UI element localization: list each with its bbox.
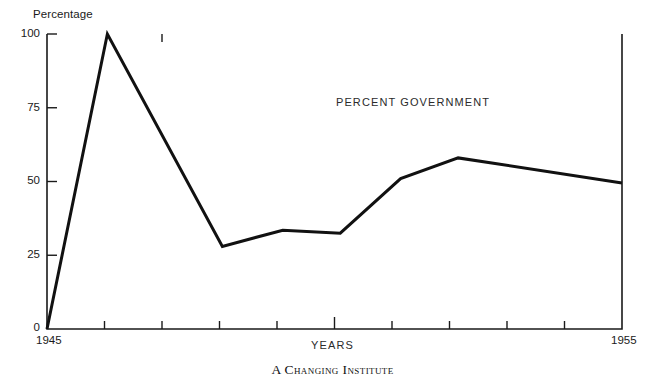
y-tick-label-0: 0 [0,321,40,333]
y-tick-label-50: 50 [0,174,40,186]
data-series-line [47,34,622,329]
axis-lines [47,34,622,329]
figure-caption: A Changing Institute [0,362,665,378]
x-axis-title: YEARS [0,339,665,351]
y-tick-label-25: 25 [0,248,40,260]
y-tick-label-100: 100 [0,27,40,39]
y-tick-marks [47,34,57,255]
x-tick-marks-bottom [105,317,565,329]
chart-figure: Percentage 100 75 [0,0,665,390]
y-tick-label-75: 75 [0,101,40,113]
plot-area [0,0,665,390]
chart-annotation-percent-government: PERCENT GOVERNMENT [336,96,490,108]
